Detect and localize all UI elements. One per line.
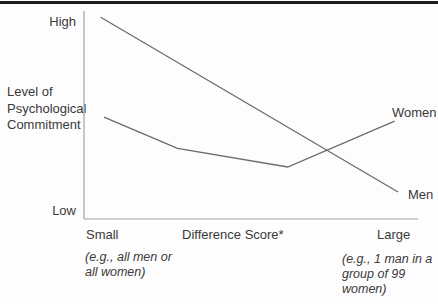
women-line (104, 117, 395, 167)
large-end-annotation-line-2: group of 99 (342, 267, 432, 282)
small-end-annotation-line-1: (e.g., all men or (85, 250, 172, 265)
small-end-annotation: (e.g., all men or all women) (85, 250, 172, 280)
x-axis-small-label: Small (86, 227, 119, 243)
small-end-annotation-line-2: all women) (85, 265, 172, 280)
large-end-annotation-line-1: (e.g., 1 man in a (342, 252, 432, 267)
men-series-label: Men (408, 187, 433, 202)
psychological-commitment-figure: High Level of Psychological Commitment L… (0, 0, 438, 304)
series-lines (101, 17, 398, 192)
men-line (101, 17, 398, 192)
large-end-annotation: (e.g., 1 man in a group of 99 women) (342, 252, 432, 297)
women-series-label: Women (392, 105, 437, 120)
x-axis-large-label: Large (377, 227, 410, 243)
large-end-annotation-line-3: women) (342, 282, 432, 297)
x-axis-title: Difference Score* (182, 227, 284, 243)
